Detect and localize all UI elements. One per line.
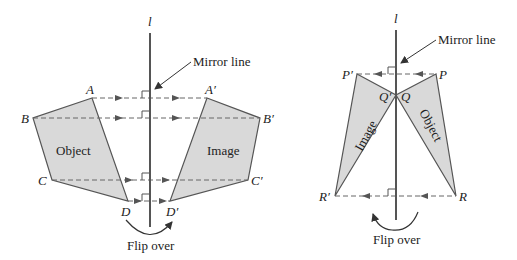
mirror-line-label: Mirror line: [438, 32, 496, 47]
point-label-P: P: [438, 67, 447, 82]
point-label-C-prime: C′: [251, 173, 263, 188]
mirror-line-label: Mirror line: [193, 54, 251, 69]
reflection-diagram: l Mirror line Object Image A B C D A′ B′…: [0, 0, 517, 260]
point-label-Q-prime: Q′: [379, 89, 391, 104]
point-label-C: C: [38, 173, 47, 188]
point-label-A: A: [85, 82, 94, 97]
image-label: Image: [207, 143, 240, 158]
point-label-D: D: [120, 204, 131, 219]
point-label-D-prime: D′: [165, 204, 178, 219]
mirror-pointer-arrow: [155, 62, 191, 89]
point-label-Q: Q: [401, 89, 411, 104]
flip-over-label: Flip over: [373, 232, 421, 247]
flip-over-label: Flip over: [127, 238, 175, 253]
point-label-A-prime: A′: [204, 82, 216, 97]
object-label: Object: [56, 143, 91, 158]
point-label-P-prime: P′: [341, 67, 353, 82]
point-label-B: B: [21, 111, 29, 126]
mirror-symbol: l: [394, 11, 398, 26]
point-label-B-prime: B′: [263, 111, 274, 126]
point-label-R-prime: R′: [318, 189, 330, 204]
right-angle-marks: [142, 91, 150, 201]
right-figure: l Mirror line Image Object P′ P Q′ Q R′ …: [318, 11, 496, 247]
left-figure: l Mirror line Object Image A B C D A′ B′…: [21, 14, 274, 253]
right-angle-marks: [388, 67, 396, 196]
mirror-symbol: l: [148, 14, 152, 29]
point-label-R: R: [458, 189, 467, 204]
mirror-pointer-arrow: [401, 40, 436, 63]
